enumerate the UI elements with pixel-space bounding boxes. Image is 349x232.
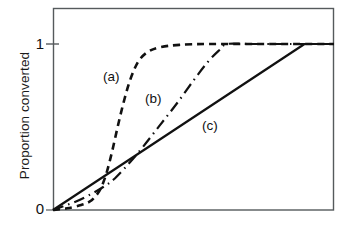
- curve-label-c: (c): [202, 118, 218, 133]
- y-axis-label: Proportion converted: [17, 31, 32, 201]
- y-tick-label-1: 1: [22, 35, 44, 52]
- curve-label-b: (b): [145, 91, 162, 106]
- plot-canvas: [0, 0, 349, 232]
- curve-label-a: (a): [103, 69, 120, 84]
- figure-background: [0, 0, 349, 232]
- y-tick-label-0: 0: [22, 200, 44, 217]
- chart-figure: Proportion converted 1 0 (a) (b) (c): [0, 0, 349, 232]
